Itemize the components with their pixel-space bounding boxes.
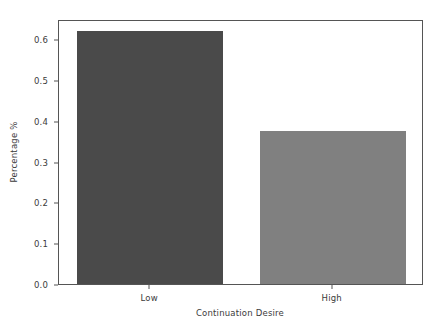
bar-chart-figure: Percentage % 0.00.10.20.30.40.50.6 LowHi…: [0, 0, 443, 331]
y-tick-label: 0.5: [34, 76, 48, 86]
bars-layer: [59, 21, 422, 284]
y-tick-label: 0.6: [34, 35, 48, 45]
x-tick-mark: [331, 285, 332, 289]
bar-high: [260, 131, 406, 284]
y-tick-label: 0.3: [34, 158, 48, 168]
y-axis-ticks: 0.00.10.20.30.40.50.6: [0, 20, 58, 285]
y-tick-label: 0.2: [34, 198, 48, 208]
y-tick-label: 0.1: [34, 239, 48, 249]
x-tick-label: Low: [141, 293, 158, 303]
bar-low: [77, 31, 223, 284]
y-tick-label: 0.0: [34, 280, 48, 290]
x-tick-mark: [149, 285, 150, 289]
x-axis-label: Continuation Desire: [196, 308, 284, 318]
x-tick-label: High: [322, 293, 342, 303]
plot-area: [58, 20, 423, 285]
x-axis-ticks: LowHigh: [58, 285, 423, 307]
y-tick-label: 0.4: [34, 117, 48, 127]
